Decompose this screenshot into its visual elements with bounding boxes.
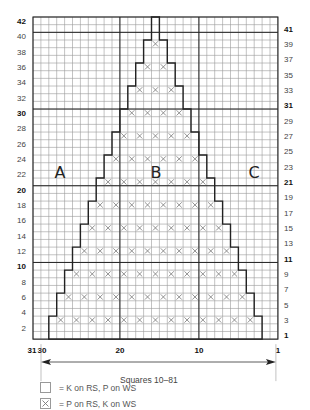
- svg-text:14: 14: [17, 232, 26, 241]
- svg-text:27: 27: [284, 132, 293, 141]
- legend-purl: = P on RS, K on WS: [40, 398, 136, 409]
- svg-text:1: 1: [284, 331, 289, 340]
- svg-text:4: 4: [22, 308, 27, 317]
- x-square-icon: [40, 398, 51, 409]
- svg-text:5: 5: [284, 301, 289, 310]
- svg-text:41: 41: [284, 25, 293, 34]
- svg-text:21: 21: [284, 178, 293, 187]
- svg-text:23: 23: [284, 163, 293, 172]
- svg-text:8: 8: [22, 278, 27, 287]
- svg-text:11: 11: [284, 255, 293, 264]
- svg-text:17: 17: [284, 209, 293, 218]
- svg-text:20: 20: [115, 346, 124, 355]
- svg-text:32: 32: [17, 94, 26, 103]
- svg-text:20: 20: [17, 186, 26, 195]
- svg-text:A: A: [55, 163, 66, 182]
- svg-text:26: 26: [17, 140, 26, 149]
- svg-text:10: 10: [17, 262, 26, 271]
- svg-text:24: 24: [17, 155, 26, 164]
- svg-text:7: 7: [284, 285, 289, 294]
- legend-purl-text: = P on RS, K on WS: [59, 399, 136, 409]
- svg-text:30: 30: [17, 109, 26, 118]
- svg-text:18: 18: [17, 201, 26, 210]
- empty-square-icon: [40, 382, 51, 393]
- svg-text:29: 29: [284, 117, 293, 126]
- svg-text:15: 15: [284, 224, 293, 233]
- svg-text:1: 1: [276, 346, 281, 355]
- legend-knit: = K on RS, P on WS: [40, 382, 136, 393]
- svg-text:39: 39: [284, 40, 293, 49]
- svg-text:19: 19: [284, 193, 293, 202]
- svg-text:35: 35: [284, 71, 293, 80]
- svg-text:22: 22: [17, 170, 26, 179]
- svg-text:31: 31: [284, 101, 293, 110]
- svg-text:28: 28: [17, 124, 26, 133]
- svg-text:33: 33: [284, 86, 293, 95]
- svg-text:38: 38: [17, 48, 26, 57]
- svg-text:10: 10: [194, 346, 203, 355]
- svg-text:13: 13: [284, 239, 293, 248]
- svg-text:9: 9: [284, 270, 289, 279]
- svg-text:C: C: [248, 163, 259, 182]
- svg-text:31: 31: [28, 346, 37, 355]
- knitting-chart: 2468101214161820222426283032343638404213…: [0, 0, 310, 410]
- svg-text:25: 25: [284, 147, 293, 156]
- legend-knit-text: = K on RS, P on WS: [59, 383, 136, 393]
- svg-text:42: 42: [17, 17, 26, 26]
- svg-text:2: 2: [22, 324, 27, 333]
- svg-text:34: 34: [17, 78, 26, 87]
- svg-text:37: 37: [284, 55, 293, 64]
- svg-text:6: 6: [22, 293, 27, 302]
- svg-text:3: 3: [284, 316, 289, 325]
- svg-text:30: 30: [37, 346, 46, 355]
- svg-text:16: 16: [17, 216, 26, 225]
- svg-text:B: B: [151, 163, 162, 182]
- svg-text:12: 12: [17, 247, 26, 256]
- svg-text:40: 40: [17, 32, 26, 41]
- svg-text:36: 36: [17, 63, 26, 72]
